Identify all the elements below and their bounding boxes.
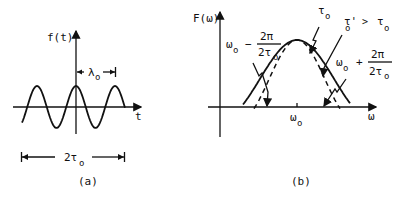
wavelength-arrowhead-left [77,70,82,75]
lower-zero-denominator: 2τ [258,46,271,59]
upper-zero-omega: ω [336,56,343,69]
f-axis-label: f(t) [47,31,74,44]
lower-zero-denominator-sub: o [273,52,278,62]
center-frequency-subscript: o [297,118,302,128]
lower-zero-numerator: 2π [260,30,274,43]
tau-prime-label: τ' o > τ o [344,15,389,33]
tau-prime-subscript: o [345,23,350,33]
tau-prime-relation: > [362,16,368,27]
tau-prime-rhs-subscript: o [384,23,389,33]
wavelength-arrowhead-right [110,70,115,75]
lower-zero-label: ω o − 2π 2τ o [226,30,281,62]
lower-zero-omega: ω [226,38,233,51]
duration-arrowhead-right [118,154,124,160]
upper-zero-denominator-sub: o [384,71,389,81]
wavelength-label: λ [88,66,95,79]
F-axis-label: F(ω) [193,12,220,25]
duration-arrowhead-left [22,154,28,160]
panel-b: F(ω) ω ω o ω o − 2π 2τ o ω o + 2π 2τ o [193,4,392,188]
duration-subscript: o [79,158,84,168]
lower-zero-operator: − [245,38,252,51]
upper-zero-label: ω o + 2π 2τ o [336,48,392,81]
lower-zero-omega-sub: o [233,45,238,55]
upper-zero-numerator: 2π [371,48,385,61]
center-frequency-label: ω o [290,111,302,128]
figure-canvas: f(t) t λ o 2τ o (a) [0,0,404,198]
caption-a: (a) [78,175,98,188]
tau-subscript: o [325,11,330,21]
tau-label: τ o [318,4,330,21]
wavelength-subscript: o [95,72,100,82]
tau-prime-rhs: τ [377,15,384,28]
tau-symbol: τ [318,4,325,17]
wavelength-marker: λ o [77,66,116,82]
caption-b: (b) [291,175,311,188]
upper-zero-omega-sub: o [343,63,348,73]
upper-zero-operator: + [356,56,363,69]
panel-a: f(t) t λ o 2τ o (a) [13,31,142,188]
upper-zero-denominator: 2τ [369,65,382,78]
duration-label: 2τ [64,151,77,164]
duration-marker: 2τ o [22,151,125,168]
omega-axis-label: ω [368,110,375,123]
t-axis-label: t [135,110,142,123]
center-frequency-symbol: ω [290,111,297,124]
